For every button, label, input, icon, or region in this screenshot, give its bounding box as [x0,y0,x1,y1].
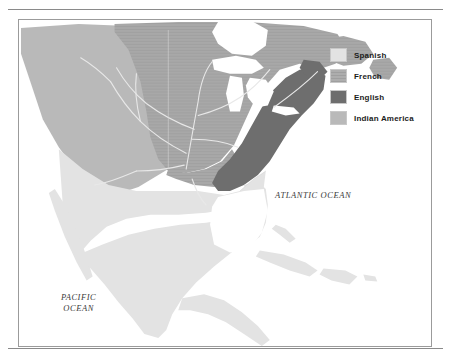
legend-swatch-french [330,69,347,83]
legend-item-french[interactable]: French [330,69,414,83]
legend-item-english[interactable]: English [330,90,414,104]
legend-item-indian-america[interactable]: Indian America [330,111,414,125]
legend-swatch-indian-america [330,111,347,125]
legend-swatch-spanish [330,48,347,62]
legend-item-spanish[interactable]: Spanish [330,48,414,62]
legend-label-indian-america: Indian America [354,114,414,123]
legend-swatch-english [330,90,347,104]
map-figure: ATLANTIC OCEAN PACIFIC OCEAN Spanish Fre… [0,0,451,362]
legend-label-french: French [354,72,382,81]
top-divider-rule [8,9,443,10]
bottom-divider-rule [8,348,443,349]
legend-label-english: English [354,93,384,102]
map-legend: Spanish French English Indian America [330,48,414,125]
legend-label-spanish: Spanish [354,51,387,60]
